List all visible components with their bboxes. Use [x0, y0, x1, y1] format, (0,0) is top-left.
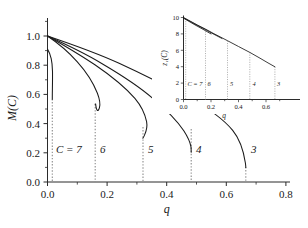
curve-label-c5: 5 [148, 143, 154, 155]
inset-curve-label-c3: 3 [276, 80, 280, 87]
main-curve-labels: C = 7 6 5 4 3 [56, 143, 257, 155]
curve-label-c4: 4 [196, 143, 202, 155]
main-xtick-label-1: 0.2 [100, 188, 114, 200]
main-ytick-label-1: 0.2 [26, 147, 40, 159]
inset-xtick-label-2: 0.4 [234, 103, 243, 110]
main-x-axis-title: q [164, 202, 170, 216]
inset-xtick-label-1: 0.2 [207, 103, 215, 110]
inset-ytick-label-1: 2 [176, 79, 179, 86]
inset-curve-label-c7: C = 7 [188, 80, 204, 87]
main-ytick-label-0: 0.0 [26, 176, 40, 188]
curve-c5 [48, 36, 147, 138]
main-xtick-label-3: 0.6 [219, 188, 233, 200]
inset-xtick-label-0: 0.0 [179, 103, 188, 110]
inset-y-axis-title: z₁(C) [160, 50, 169, 67]
main-ytick-label-4: 0.8 [26, 59, 40, 71]
main-ytick-label-3: 0.6 [26, 88, 40, 100]
curve-label-c7: C = 7 [56, 143, 82, 155]
main-y-axis-title: M(C) [5, 95, 19, 122]
curve-c6 [48, 36, 100, 111]
main-ytick-label-2: 0.4 [26, 118, 40, 130]
main-y-ticks [44, 21, 48, 182]
main-xtick-label-4: 0.8 [279, 188, 293, 200]
inset-plot: 0 2 4 6 8 10 0.0 0.2 0.4 0.6 q z₁(C) [152, 6, 304, 120]
main-xtick-label-2: 0.4 [160, 188, 174, 200]
main-ytick-label-5: 1.0 [26, 30, 40, 42]
curve-label-c6: 6 [100, 143, 106, 155]
chart-svg: 0.0 0.2 0.4 0.6 0.8 1.0 0.0 0.2 0.4 0.6 … [0, 0, 308, 228]
inset-curve-label-c5: 5 [230, 80, 233, 87]
inset-ytick-label-5: 10 [172, 14, 179, 21]
inset-xtick-label-3: 0.6 [262, 103, 271, 110]
curve-label-c3: 3 [250, 143, 257, 155]
main-xtick-label-0: 0.0 [41, 188, 55, 200]
main-x-ticks [48, 182, 286, 186]
inset-x-axis-title: q [222, 111, 226, 120]
curve-c7 [48, 49, 53, 99]
figure-root: 0.0 0.2 0.4 0.6 0.8 1.0 0.0 0.2 0.4 0.6 … [0, 0, 308, 228]
